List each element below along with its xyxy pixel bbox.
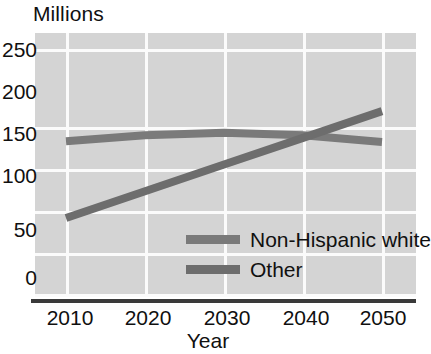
y-tick-50: 50 bbox=[0, 219, 37, 240]
line-other bbox=[66, 111, 382, 218]
legend-label-non-hispanic-white: Non-Hispanic white bbox=[250, 228, 431, 251]
x-tick-2050: 2050 bbox=[343, 306, 423, 330]
y-tick-200: 200 bbox=[0, 81, 37, 102]
x-axis-line bbox=[31, 299, 416, 303]
x-axis-title: Year bbox=[0, 329, 416, 352]
y-axis-tick-labels: 250 200 150 100 50 0 bbox=[0, 33, 37, 297]
x-tick-2020: 2020 bbox=[108, 306, 188, 330]
x-tick-2040: 2040 bbox=[266, 306, 346, 330]
chart-legend: Non-Hispanic white Other bbox=[186, 224, 416, 284]
legend-entry-other: Other bbox=[186, 254, 416, 284]
legend-label-other: Other bbox=[250, 258, 303, 281]
legend-entry-non-hispanic-white: Non-Hispanic white bbox=[186, 224, 416, 254]
y-tick-100: 100 bbox=[0, 165, 37, 186]
line-non-hispanic-white bbox=[66, 133, 382, 142]
x-tick-2010: 2010 bbox=[30, 306, 110, 330]
x-tick-2030: 2030 bbox=[187, 306, 267, 330]
y-axis-unit-title: Millions bbox=[33, 2, 104, 26]
y-tick-0: 0 bbox=[0, 267, 37, 288]
legend-swatch-non-hispanic-white bbox=[186, 235, 240, 244]
legend-swatch-other bbox=[186, 265, 240, 274]
y-tick-250: 250 bbox=[0, 39, 37, 60]
y-tick-150: 150 bbox=[0, 123, 37, 144]
